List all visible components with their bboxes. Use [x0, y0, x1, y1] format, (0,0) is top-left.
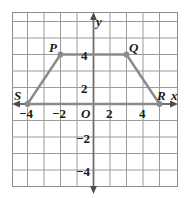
vertex-label-s: S [14, 89, 21, 102]
x-tick-label-neg2: −2 [52, 107, 66, 120]
vertex-marker-p [58, 52, 64, 58]
origin-label: O [81, 107, 90, 120]
vertex-label-r: R [157, 89, 166, 102]
y-tick-label-neg4: −4 [76, 165, 90, 178]
x-tick-label-pos2: 2 [106, 107, 113, 120]
y-tick-label-neg2: −2 [76, 132, 90, 145]
x-tick-label-neg4: −4 [19, 107, 33, 120]
x-tick-label-pos4: 4 [139, 107, 146, 120]
vertex-label-p: P [49, 41, 57, 54]
y-tick-label-pos2: 2 [81, 82, 88, 95]
y-axis-label: y [96, 15, 102, 28]
x-axis-label: x [171, 89, 178, 102]
coordinate-plane-figure: −4 −2 2 4 4 2 −2 −4 O P Q R S y x [0, 0, 188, 198]
y-axis-arrow-down [90, 186, 97, 194]
y-tick-label-pos4: 4 [81, 49, 88, 62]
plot-frame [13, 13, 178, 187]
vertex-label-q: Q [129, 41, 138, 54]
